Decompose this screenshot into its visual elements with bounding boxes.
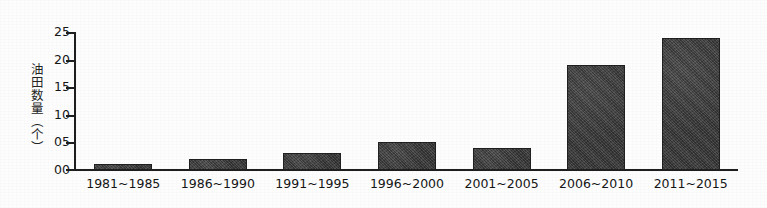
bar-1996-2000 <box>378 142 436 170</box>
x-tick-label: 2011~2015 <box>643 176 738 192</box>
bar-1981-1985 <box>94 164 152 170</box>
bar-chart-figure: 油田数量（个） 25 20 15 10 05 00 <box>0 0 767 208</box>
plot-area <box>76 32 738 170</box>
y-tick-mark <box>66 87 74 89</box>
bar-2006-2010 <box>567 65 625 170</box>
bar-slot <box>76 32 171 170</box>
y-tick-mark <box>66 115 74 117</box>
bar-slot <box>171 32 266 170</box>
y-tick-mark <box>66 169 74 171</box>
x-tick-label: 1981~1985 <box>76 176 171 192</box>
bar-1991-1995 <box>283 153 341 170</box>
bar-slot <box>454 32 549 170</box>
x-tick-label: 1996~2000 <box>360 176 455 192</box>
y-tick-mark <box>66 32 74 34</box>
bar-1986-1990 <box>189 159 247 170</box>
bar-2001-2005 <box>473 148 531 170</box>
bar-slot <box>549 32 644 170</box>
x-tick-label: 2001~2005 <box>454 176 549 192</box>
bar-slot <box>265 32 360 170</box>
y-tick-mark <box>66 60 74 62</box>
bar-slot <box>360 32 455 170</box>
x-tick-label: 2006~2010 <box>549 176 644 192</box>
bar-2011-2015 <box>662 38 720 170</box>
x-tick-label: 1991~1995 <box>265 176 360 192</box>
bar-slot <box>643 32 738 170</box>
y-tick-mark <box>66 142 74 144</box>
y-axis-title: 油田数量（个） <box>16 42 42 174</box>
x-tick-label: 1986~1990 <box>171 176 266 192</box>
x-axis-tick-labels: 1981~1985 1986~1990 1991~1995 1996~2000 … <box>76 176 738 198</box>
